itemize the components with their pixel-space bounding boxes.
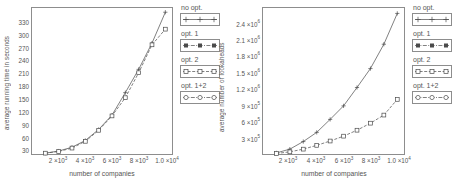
left-plot-area (31, 7, 173, 155)
right-legend: no opt. opt. 1 (412, 4, 452, 108)
y-tick-label: 3 ×105 (242, 135, 261, 142)
x-tick-label: 2 ×103 (49, 157, 68, 164)
x-tick-label: 6 ×103 (335, 157, 354, 164)
x-tick-label: 2 ×103 (279, 157, 298, 164)
y-tick-label: 180 (18, 83, 29, 90)
y-tick-label: 120 (18, 108, 29, 115)
y-tick-label: 240 (18, 57, 29, 64)
y-tick-label: 30 (22, 147, 29, 154)
y-tick-label: 300 (18, 31, 29, 38)
y-tick-label: 2.4 ×106 (236, 20, 260, 27)
legend-entry: opt. 1 (412, 30, 452, 52)
left-x-tick-labels: 2 ×103 4 ×103 6 ×103 8 ×103 1.0 ×104 (0, 157, 226, 169)
y-tick-label: 6 ×105 (242, 119, 261, 126)
right-x-axis-label: number of companies (301, 170, 366, 177)
y-tick-label: 9 ×105 (242, 102, 261, 109)
panel-lookaheads: average number of lookaheads 3 ×105 6 ×1… (226, 0, 452, 186)
y-tick-label: 270 (18, 44, 29, 51)
legend-key-opt-1-2 (412, 91, 452, 104)
y-tick-label: 210 (18, 70, 29, 77)
left-data-curves (32, 8, 174, 156)
legend-label: no opt. (180, 4, 222, 11)
y-tick-label: 2.1 ×106 (236, 36, 260, 43)
legend-key-opt-2 (180, 65, 220, 78)
x-tick-label: 4 ×103 (307, 157, 326, 164)
y-tick-label: 1.2 ×106 (236, 86, 260, 93)
y-tick-label: 1.5 ×106 (236, 69, 260, 76)
legend-key-opt-1 (180, 39, 220, 52)
right-x-tick-labels: 2 ×103 4 ×103 6 ×103 8 ×103 1.0 ×104 (226, 157, 452, 169)
legend-label: opt. 1 (180, 30, 222, 37)
panel-running-time: average running time in seconds 30 60 90… (0, 0, 226, 186)
right-data-curves (263, 8, 406, 156)
legend-label: opt. 2 (412, 56, 452, 63)
x-tick-label: 1.0 ×104 (155, 157, 179, 164)
x-tick-label: 8 ×103 (362, 157, 381, 164)
legend-entry: no opt. (180, 4, 222, 26)
legend-key-opt-1-2 (180, 91, 220, 104)
legend-entry: opt. 1+2 (412, 82, 452, 104)
legend-label: opt. 1+2 (180, 82, 222, 89)
legend-entry: opt. 2 (180, 56, 222, 78)
figure-two-panel-line-charts: average running time in seconds 30 60 90… (0, 0, 452, 186)
y-tick-label: 60 (22, 134, 29, 141)
x-tick-label: 1.0 ×104 (387, 157, 411, 164)
legend-key-opt-2 (412, 65, 452, 78)
right-y-axis-label: average number of lookaheads (218, 22, 225, 152)
y-tick-label: 90 (22, 121, 29, 128)
legend-entry: opt. 1 (180, 30, 222, 52)
x-tick-label: 8 ×103 (130, 157, 149, 164)
legend-key-no-opt (412, 13, 452, 26)
x-tick-label: 4 ×103 (76, 157, 95, 164)
y-tick-label: 1.8 ×106 (236, 53, 260, 60)
y-tick-label: 150 (18, 95, 29, 102)
legend-entry: no opt. (412, 4, 452, 26)
legend-label: no opt. (412, 4, 452, 11)
legend-label: opt. 1+2 (412, 82, 452, 89)
left-x-axis-label: number of companies (69, 170, 134, 177)
y-tick-label: 330 (18, 18, 29, 25)
legend-label: opt. 1 (412, 30, 452, 37)
legend-entry: opt. 1+2 (180, 82, 222, 104)
x-tick-label: 6 ×103 (103, 157, 122, 164)
legend-key-opt-1 (412, 39, 452, 52)
legend-entry: opt. 2 (412, 56, 452, 78)
right-plot-area (262, 7, 405, 155)
legend-key-no-opt (180, 13, 220, 26)
left-legend: no opt. opt. 1 (180, 4, 222, 108)
legend-label: opt. 2 (180, 56, 222, 63)
